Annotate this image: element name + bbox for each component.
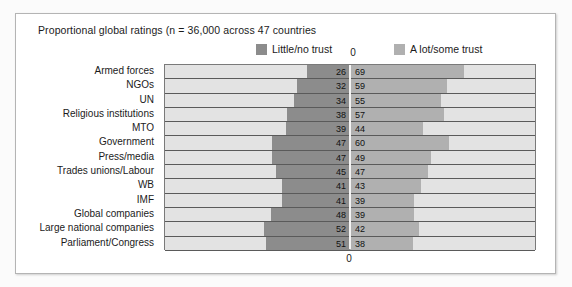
category-label: Large national companies — [16, 221, 159, 235]
bar-value-little-no-trust: 41 — [336, 179, 346, 193]
bar-little-no-trust: 26 — [307, 65, 350, 78]
bar-value-little-no-trust: 32 — [336, 79, 346, 93]
chart-plot-area: 2669325934553857394447604749454741434139… — [164, 64, 536, 250]
legend-item-little-no-trust: Little/no trust — [256, 43, 332, 55]
bar-value-little-no-trust: 48 — [336, 208, 346, 222]
bar-a-lot-some-trust: 60 — [350, 136, 449, 149]
category-label: Government — [16, 135, 159, 149]
category-label: Religious institutions — [16, 107, 159, 121]
bar-value-little-no-trust: 39 — [336, 122, 346, 136]
category-axis-labels: Armed forcesNGOsUNReligious institutions… — [16, 64, 159, 250]
category-label: Armed forces — [16, 64, 159, 78]
bar-value-a-lot-some-trust: 49 — [355, 151, 365, 165]
bar-value-little-no-trust: 41 — [336, 194, 346, 208]
chart-legend: Little/no trust A lot/some trust — [16, 43, 557, 59]
bar-value-little-no-trust: 52 — [336, 222, 346, 236]
bar-value-a-lot-some-trust: 43 — [355, 179, 365, 193]
bar-a-lot-some-trust: 49 — [350, 151, 431, 164]
bar-a-lot-some-trust: 57 — [350, 108, 444, 121]
chart-title: Proportional global ratings (n = 36,000 … — [38, 24, 316, 36]
bar-value-a-lot-some-trust: 57 — [355, 108, 365, 122]
bar-little-no-trust: 41 — [282, 179, 350, 192]
bar-little-no-trust: 38 — [287, 108, 350, 121]
bar-little-no-trust: 32 — [297, 79, 350, 92]
bar-value-little-no-trust: 26 — [336, 65, 346, 79]
bar-little-no-trust: 41 — [282, 194, 350, 207]
bar-value-a-lot-some-trust: 55 — [355, 94, 365, 108]
bar-value-a-lot-some-trust: 59 — [355, 79, 365, 93]
axis-zero-label-bottom: 0 — [342, 253, 356, 264]
bar-value-a-lot-some-trust: 44 — [355, 122, 365, 136]
bar-a-lot-some-trust: 39 — [350, 208, 414, 221]
bar-little-no-trust: 48 — [271, 208, 350, 221]
bar-a-lot-some-trust: 42 — [350, 222, 419, 235]
category-label: UN — [16, 93, 159, 107]
bar-a-lot-some-trust: 55 — [350, 94, 441, 107]
figure-page-background: Proportional global ratings (n = 36,000 … — [0, 0, 572, 287]
bar-value-a-lot-some-trust: 60 — [355, 136, 365, 150]
bar-a-lot-some-trust: 38 — [350, 237, 413, 250]
bar-value-a-lot-some-trust: 69 — [355, 65, 365, 79]
bar-little-no-trust: 51 — [266, 237, 350, 250]
bar-value-a-lot-some-trust: 47 — [355, 165, 365, 179]
category-label: WB — [16, 178, 159, 192]
bar-value-a-lot-some-trust: 42 — [355, 222, 365, 236]
bar-a-lot-some-trust: 43 — [350, 179, 421, 192]
bar-little-no-trust: 47 — [272, 136, 350, 149]
bar-a-lot-some-trust: 47 — [350, 165, 428, 178]
bar-value-little-no-trust: 38 — [336, 108, 346, 122]
category-label: IMF — [16, 193, 159, 207]
bar-little-no-trust: 34 — [294, 94, 350, 107]
bar-a-lot-some-trust: 69 — [350, 65, 464, 78]
category-label: Press/media — [16, 150, 159, 164]
bar-little-no-trust: 47 — [272, 151, 350, 164]
bar-value-little-no-trust: 47 — [336, 136, 346, 150]
legend-swatch-a-lot-some-trust — [394, 44, 405, 55]
legend-item-a-lot-some-trust: A lot/some trust — [394, 43, 482, 55]
bar-value-little-no-trust: 34 — [336, 94, 346, 108]
bar-a-lot-some-trust: 59 — [350, 79, 447, 92]
category-label: MTO — [16, 121, 159, 135]
bar-a-lot-some-trust: 44 — [350, 122, 423, 135]
bar-value-little-no-trust: 47 — [336, 151, 346, 165]
legend-label-little-no-trust: Little/no trust — [272, 43, 332, 55]
legend-label-a-lot-some-trust: A lot/some trust — [410, 43, 482, 55]
bar-value-a-lot-some-trust: 38 — [355, 237, 365, 251]
axis-zero-label-top: 0 — [346, 47, 360, 58]
legend-swatch-little-no-trust — [256, 44, 267, 55]
bar-little-no-trust: 45 — [276, 165, 350, 178]
bar-value-a-lot-some-trust: 39 — [355, 194, 365, 208]
category-label: Global companies — [16, 207, 159, 221]
bar-little-no-trust: 39 — [286, 122, 350, 135]
zero-axis-line — [349, 65, 351, 249]
category-label: Parliament/Congress — [16, 236, 159, 250]
chart-card: Proportional global ratings (n = 36,000 … — [15, 13, 556, 274]
bar-value-little-no-trust: 51 — [336, 237, 346, 251]
category-label: Trades unions/Labour — [16, 164, 159, 178]
bar-a-lot-some-trust: 39 — [350, 194, 414, 207]
bar-little-no-trust: 52 — [264, 222, 350, 235]
category-label: NGOs — [16, 78, 159, 92]
bar-value-little-no-trust: 45 — [336, 165, 346, 179]
bar-value-a-lot-some-trust: 39 — [355, 208, 365, 222]
